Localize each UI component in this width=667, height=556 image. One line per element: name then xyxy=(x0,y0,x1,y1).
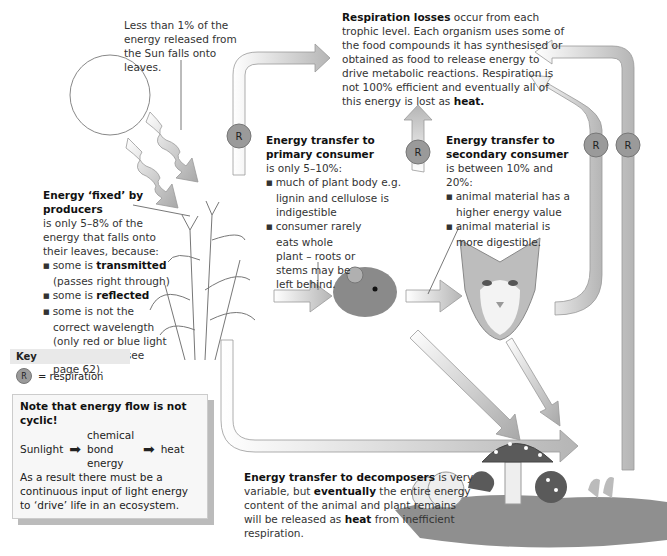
note-title: Note that energy flow is not cyclic! xyxy=(20,399,200,427)
respiration-symbol-icon: R xyxy=(16,368,32,384)
list-item: some is transmitted (passes right throug… xyxy=(43,258,171,288)
arrow-mouse-to-cat xyxy=(406,280,462,312)
arrow-cat-to-decomposers xyxy=(506,338,560,426)
sun-note: Less than 1% of the energy released from… xyxy=(124,18,244,74)
svg-text:R: R xyxy=(593,140,600,151)
note-box: Note that energy flow is not cyclic! Sun… xyxy=(12,394,208,519)
list-item: animal material has a higher energy valu… xyxy=(446,189,576,219)
secondary-consumer-text: Energy transfer to secondary consumer is… xyxy=(446,133,576,249)
respiration-marker: R xyxy=(616,133,640,157)
arrow-right-icon: ➡ xyxy=(69,442,81,456)
producers-heading: Energy ‘fixed’ by producers xyxy=(43,189,143,215)
respiration-heading: Respiration losses xyxy=(342,11,450,23)
cat-illustration xyxy=(460,238,540,340)
primary-consumer-text: Energy transfer to primary consumer is o… xyxy=(266,133,406,291)
note-text: As a result there must be a continuous i… xyxy=(20,470,200,512)
key-meaning: = respiration xyxy=(38,371,103,382)
secondary-heading-1: Energy transfer to xyxy=(446,134,555,146)
list-item: much of plant body e.g. lignin and cellu… xyxy=(266,175,406,219)
list-item: consumer rarely eats whole plant – roots… xyxy=(266,219,362,291)
primary-heading-2: primary consumer xyxy=(266,148,374,160)
respiration-losses-text: Respiration losses occur from each troph… xyxy=(342,10,567,108)
energy-flow-sequence: Sunlight ➡ chemical bond energy ➡ heat xyxy=(20,428,200,470)
respiration-marker: R xyxy=(584,133,608,157)
decomposers-heading: Energy transfer to decomposers xyxy=(244,471,435,483)
arrow-right-icon: ➡ xyxy=(143,442,155,456)
key-title: Key xyxy=(10,349,130,364)
svg-text:R: R xyxy=(236,131,243,142)
list-item: animal material is more digestible. xyxy=(446,219,576,249)
respiration-marker: R xyxy=(227,124,251,148)
producers-text: Energy ‘fixed’ by producers is only 5–8%… xyxy=(43,188,171,376)
primary-heading-1: Energy transfer to xyxy=(266,134,375,146)
svg-text:R: R xyxy=(625,140,632,151)
secondary-heading-2: secondary consumer xyxy=(446,148,568,160)
decomposers-text: Energy transfer to decomposers is very v… xyxy=(244,470,474,540)
arrow-mouse-to-decomposers xyxy=(410,330,520,440)
list-item: some is reflected xyxy=(43,288,171,304)
svg-text:R: R xyxy=(415,147,422,158)
legend-key: Key R = respiration xyxy=(10,349,130,388)
respiration-marker: R xyxy=(406,140,430,164)
